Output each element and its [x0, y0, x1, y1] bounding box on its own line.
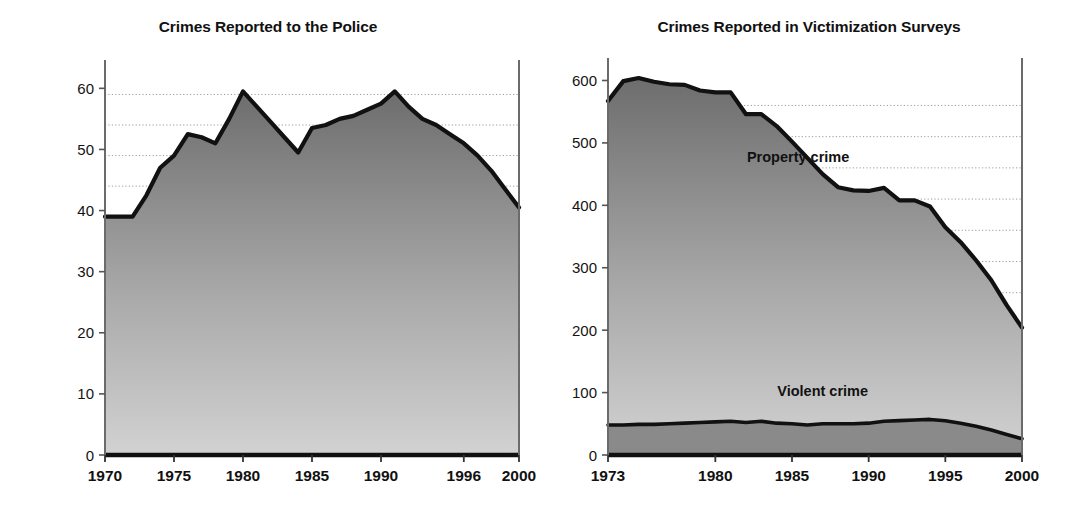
- x-tick-label: 1985: [775, 467, 810, 484]
- x-tick-label: 1980: [226, 467, 260, 484]
- y-tick-label: 30: [77, 263, 94, 280]
- area-fill-main: [105, 91, 519, 455]
- two-panel-crime-figure: Crimes Reported to the Police Reported c…: [0, 0, 1083, 510]
- x-tick-label: 2000: [502, 467, 536, 484]
- x-tick-label: 1975: [157, 467, 192, 484]
- y-tick-label: 20: [77, 324, 94, 341]
- panel-right-plot: 0100200300400500600197319801985199019952…: [541, 0, 1083, 510]
- y-tick-label: 400: [572, 197, 597, 214]
- x-tick-label: 2000: [1005, 467, 1039, 484]
- panel-crimes-in-victimization-surveys: Crimes Reported in Victimization Surveys…: [541, 0, 1083, 510]
- x-tick-label: 1985: [295, 467, 330, 484]
- series-annotation: Property crime: [747, 149, 849, 165]
- y-tick-label: 600: [572, 72, 597, 89]
- y-tick-label: 60: [77, 80, 94, 97]
- y-tick-label: 500: [572, 134, 597, 151]
- y-tick-label: 50: [77, 141, 94, 158]
- y-tick-label: 0: [86, 447, 94, 464]
- x-tick-label: 1995: [928, 467, 963, 484]
- x-tick-label: 1990: [851, 467, 885, 484]
- panel-left-plot: 0102030405060197019751980198519901996200…: [0, 0, 541, 510]
- x-tick-label: 1970: [88, 467, 122, 484]
- y-tick-label: 0: [589, 447, 597, 464]
- y-tick-label: 10: [77, 385, 94, 402]
- y-tick-label: 40: [77, 202, 94, 219]
- panel-crimes-reported-to-police: Crimes Reported to the Police Reported c…: [0, 0, 541, 510]
- x-tick-label: 1996: [447, 467, 482, 484]
- x-tick-label: 1973: [591, 467, 626, 484]
- x-tick-label: 1980: [698, 467, 732, 484]
- y-tick-label: 100: [572, 384, 597, 401]
- x-tick-label: 1990: [364, 467, 398, 484]
- y-tick-label: 200: [572, 322, 597, 339]
- y-tick-label: 300: [572, 259, 597, 276]
- series-annotation: Violent crime: [777, 383, 868, 399]
